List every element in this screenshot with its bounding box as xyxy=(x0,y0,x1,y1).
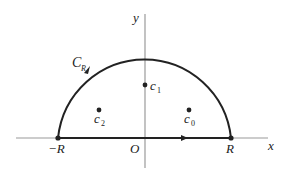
right-endpoint-dot xyxy=(228,135,233,140)
svg-text:c: c xyxy=(94,111,100,126)
left-endpoint-label: −R xyxy=(48,141,65,156)
svg-text:1: 1 xyxy=(157,86,161,95)
contour-diagram: y x O −R R C R c 1 c 2 c 0 xyxy=(0,0,291,171)
point-c1-label: c 1 xyxy=(150,78,161,95)
svg-text:2: 2 xyxy=(101,119,105,128)
x-axis-label: x xyxy=(267,138,274,153)
direction-arrow-icon xyxy=(181,135,188,141)
origin-label: O xyxy=(130,141,140,156)
svg-text:c: c xyxy=(184,111,190,126)
svg-text:R: R xyxy=(80,64,86,73)
point-c2-label: c 2 xyxy=(94,111,105,128)
point-c1-dot xyxy=(143,83,148,88)
y-axis-label: y xyxy=(131,10,139,25)
right-endpoint-label: R xyxy=(225,141,234,156)
svg-text:c: c xyxy=(150,78,156,93)
left-endpoint-dot xyxy=(55,135,60,140)
svg-text:0: 0 xyxy=(191,119,195,128)
contour-label: C R xyxy=(72,55,86,73)
point-c0-label: c 0 xyxy=(184,111,195,128)
